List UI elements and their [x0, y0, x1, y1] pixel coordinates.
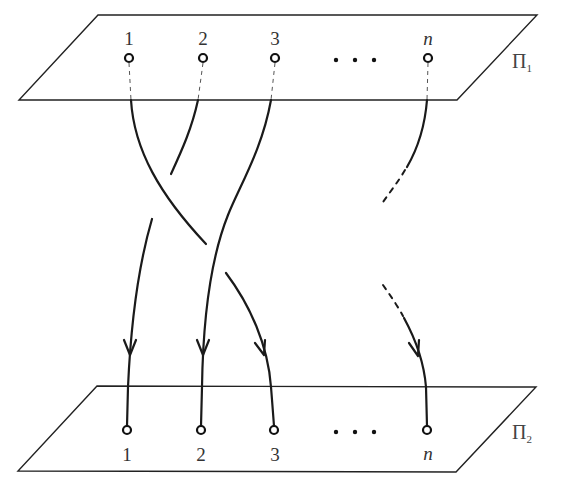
strand-end-n	[426, 387, 427, 426]
braid-diagram: 1 2 3 n Π1	[0, 0, 561, 500]
top-point-1	[125, 54, 133, 62]
arrow-icon-3	[255, 340, 265, 355]
arrow-icon-n	[409, 340, 419, 356]
strand-end-1	[127, 387, 128, 426]
top-point-n	[424, 54, 432, 62]
top-ellipsis	[334, 58, 376, 62]
bottom-ellipsis	[334, 430, 376, 434]
top-plane: 1 2 3 n Π1	[19, 15, 537, 100]
bottom-point-n	[423, 426, 431, 434]
strand-n-dashed-upper	[383, 170, 405, 202]
strand-2-upper	[171, 100, 198, 174]
strand-n-upper	[407, 100, 427, 167]
bottom-point-2	[197, 426, 205, 434]
hidden-segment-n	[427, 63, 428, 100]
hidden-segment-2	[198, 63, 203, 100]
bottom-point-1	[123, 426, 131, 434]
top-label-2: 2	[198, 28, 208, 49]
bottom-plane-label: Π2	[512, 421, 532, 445]
strand-2-lower	[128, 219, 152, 387]
top-plane-label: Π1	[512, 50, 532, 74]
strand-end-3	[271, 387, 274, 426]
top-label-1: 1	[124, 28, 134, 49]
bottom-label-n: n	[423, 443, 433, 464]
strand-n-dashed-lower	[383, 285, 403, 316]
bottom-point-3	[270, 426, 278, 434]
strand-end-2	[201, 387, 202, 426]
bottom-label-3: 3	[270, 444, 280, 465]
top-point-2	[199, 54, 207, 62]
strand-3	[202, 100, 271, 387]
top-label-3: 3	[270, 28, 280, 49]
top-label-n: n	[423, 28, 433, 49]
strand-1-lower	[226, 273, 271, 387]
strand-1-upper	[131, 100, 206, 244]
hidden-segment-1	[129, 63, 131, 100]
hidden-segment-3	[271, 63, 275, 100]
bottom-label-2: 2	[196, 444, 206, 465]
bottom-plane: 1 2 3 n Π2	[18, 386, 536, 472]
top-point-3	[271, 54, 279, 62]
bottom-label-1: 1	[122, 444, 132, 465]
braid-strands	[124, 100, 427, 387]
